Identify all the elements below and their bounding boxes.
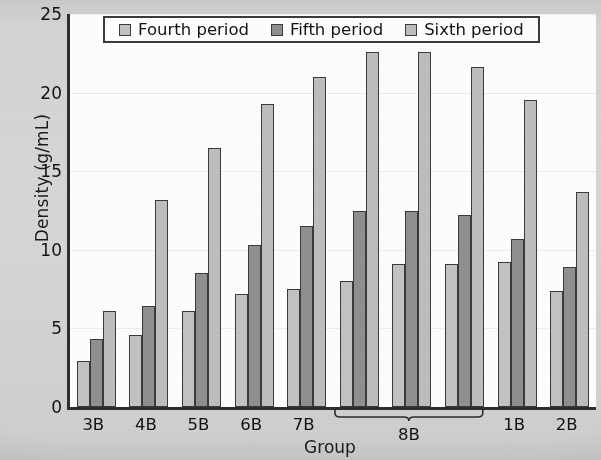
bar[interactable] bbox=[182, 311, 195, 407]
bar-group bbox=[386, 14, 439, 407]
bar-group bbox=[491, 14, 544, 407]
x-axis-title: Group bbox=[67, 437, 593, 457]
bar[interactable] bbox=[313, 77, 326, 407]
bar[interactable] bbox=[103, 311, 116, 407]
x-axis-tick-label: 5B bbox=[172, 412, 225, 438]
bar[interactable] bbox=[155, 200, 168, 408]
y-axis-tick-label: 20 bbox=[24, 83, 62, 103]
bar-group bbox=[175, 14, 228, 407]
bar[interactable] bbox=[235, 294, 248, 407]
bar-group bbox=[123, 14, 176, 407]
x-axis-tick-labels: 3B4B5B6B7B8B1B2B bbox=[67, 412, 593, 438]
bar[interactable] bbox=[261, 104, 274, 407]
bar-groups bbox=[70, 14, 596, 407]
y-axis-tick-label: 5 bbox=[24, 318, 62, 338]
y-axis-tick-label: 10 bbox=[24, 240, 62, 260]
brace-icon bbox=[334, 409, 484, 422]
bar[interactable] bbox=[563, 267, 576, 407]
bar[interactable] bbox=[353, 211, 366, 408]
bar[interactable] bbox=[445, 264, 458, 407]
legend-label: Fifth period bbox=[290, 20, 383, 39]
bar[interactable] bbox=[458, 215, 471, 407]
bar[interactable] bbox=[405, 211, 418, 408]
x-axis-tick-label: 4B bbox=[120, 412, 173, 438]
bar[interactable] bbox=[392, 264, 405, 407]
y-axis-tick-label: 25 bbox=[24, 4, 62, 24]
bar[interactable] bbox=[366, 52, 379, 407]
legend-swatch-icon bbox=[271, 24, 283, 36]
bar[interactable] bbox=[129, 335, 142, 407]
x-axis-tick-label: 6B bbox=[225, 412, 278, 438]
x-axis-tick-label: 7B bbox=[277, 412, 330, 438]
plot-inner bbox=[70, 14, 596, 407]
bar[interactable] bbox=[576, 192, 589, 407]
legend-item: Fourth period bbox=[119, 20, 249, 39]
bar-group bbox=[333, 14, 386, 407]
bar-group bbox=[438, 14, 491, 407]
legend-label: Sixth period bbox=[424, 20, 524, 39]
y-axis-tick-labels: 0510152025 bbox=[22, 0, 62, 460]
bar-group bbox=[543, 14, 596, 407]
bar[interactable] bbox=[195, 273, 208, 407]
bar[interactable] bbox=[77, 361, 90, 407]
legend-item: Sixth period bbox=[405, 20, 524, 39]
x-axis-tick-label: 3B bbox=[67, 412, 120, 438]
bar[interactable] bbox=[471, 67, 484, 407]
x-axis-tick-label: 2B bbox=[540, 412, 593, 438]
legend-swatch-icon bbox=[405, 24, 417, 36]
y-axis-tick-label: 15 bbox=[24, 161, 62, 181]
bar[interactable] bbox=[142, 306, 155, 407]
chart-figure: Density (g/mL) 0510152025 Fourth periodF… bbox=[0, 0, 601, 460]
legend-label: Fourth period bbox=[138, 20, 249, 39]
bar[interactable] bbox=[287, 289, 300, 407]
bar[interactable] bbox=[208, 148, 221, 407]
bar-group bbox=[70, 14, 123, 407]
bar-group bbox=[228, 14, 281, 407]
bar[interactable] bbox=[300, 226, 313, 407]
y-axis-tick-label: 0 bbox=[24, 397, 62, 417]
legend-swatch-icon bbox=[119, 24, 131, 36]
bar[interactable] bbox=[524, 100, 537, 407]
bar[interactable] bbox=[498, 262, 511, 407]
bar[interactable] bbox=[248, 245, 261, 407]
bar[interactable] bbox=[340, 281, 353, 407]
legend-item: Fifth period bbox=[271, 20, 383, 39]
bar[interactable] bbox=[511, 239, 524, 407]
chart-legend: Fourth periodFifth periodSixth period bbox=[103, 16, 540, 43]
bar[interactable] bbox=[550, 291, 563, 407]
bar-group bbox=[280, 14, 333, 407]
bar[interactable] bbox=[90, 339, 103, 407]
group-bracket-8b bbox=[334, 409, 484, 422]
x-axis-tick-label: 1B bbox=[488, 412, 541, 438]
bar[interactable] bbox=[418, 52, 431, 407]
plot-area bbox=[67, 14, 596, 410]
